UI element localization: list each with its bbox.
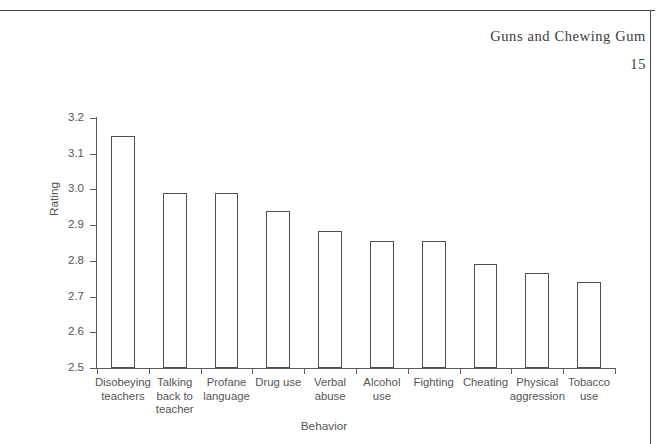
x-axis-category-label-line: teacher (143, 403, 207, 417)
x-tick-mark (149, 368, 150, 374)
y-tick-label: 3.2 (68, 111, 84, 123)
x-tick-mark (201, 368, 202, 374)
x-tick-mark (408, 368, 409, 374)
bar (422, 241, 446, 368)
bar (370, 241, 394, 368)
y-tick-mark (90, 332, 97, 333)
bar (577, 282, 601, 368)
bar (215, 193, 239, 368)
y-tick-label: 2.5 (68, 361, 84, 373)
bar (525, 273, 549, 368)
scanned-page: Guns and Chewing Gum 15 3.23.13.02.92.82… (0, 0, 664, 444)
bar (111, 136, 135, 368)
x-axis-title-text: Behavior (301, 419, 348, 433)
x-axis-category-label: Tobaccouse (557, 376, 621, 403)
x-tick-mark (615, 368, 616, 374)
x-axis-category-label-line: use (350, 390, 414, 404)
y-tick-mark (90, 368, 97, 369)
x-tick-mark (304, 368, 305, 374)
x-axis-category-label-line: Tobacco (557, 376, 621, 390)
y-axis-title: Rating (47, 182, 61, 216)
y-tick-mark (90, 261, 97, 262)
y-tick-label: 2.8 (68, 254, 84, 266)
y-tick-mark (90, 297, 97, 298)
x-axis-category-label-line: use (557, 390, 621, 404)
x-tick-mark (563, 368, 564, 374)
bar (266, 211, 290, 368)
bar (163, 193, 187, 368)
y-tick-label: 3.1 (68, 147, 84, 159)
bar-chart: 3.23.13.02.92.82.72.62.5 Disobeyingteach… (0, 0, 664, 444)
x-axis-title: Behavior (0, 419, 664, 433)
x-tick-mark (252, 368, 253, 374)
y-tick-mark (90, 118, 97, 119)
bar (474, 264, 498, 368)
x-tick-mark (97, 368, 98, 374)
bar (318, 231, 342, 369)
y-tick-label: 2.7 (68, 290, 84, 302)
x-tick-mark (511, 368, 512, 374)
y-tick-label: 2.9 (68, 218, 84, 230)
y-tick-label: 2.6 (68, 325, 84, 337)
x-axis-category-label-line: language (195, 390, 259, 404)
y-tick-label: 3.0 (68, 182, 84, 194)
y-tick-mark (90, 225, 97, 226)
y-tick-mark (90, 154, 97, 155)
y-tick-mark (90, 189, 97, 190)
y-axis-line (96, 117, 97, 369)
x-tick-mark (356, 368, 357, 374)
x-tick-mark (460, 368, 461, 374)
